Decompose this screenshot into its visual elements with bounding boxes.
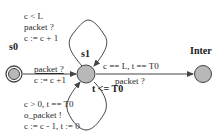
- state-inter-label: Inter: [190, 46, 212, 56]
- loop-bottom-update: c := c - 1, t := 0: [24, 121, 80, 131]
- state-s1-label: s1: [81, 49, 90, 59]
- s0-s1-update: c := c +1: [34, 75, 66, 85]
- state-s0-label: s0: [9, 42, 18, 52]
- loop-bottom-guard: c > 0, t == T0: [24, 99, 74, 109]
- s0-s1-sync: packet ?: [34, 64, 64, 74]
- s1-inter-sync: packet ?: [115, 76, 145, 86]
- loop-top-update: c := c + 1: [24, 33, 58, 43]
- edge-s1-loop-top[interactable]: [69, 20, 107, 66]
- loop-top-sync: packet ?: [24, 22, 54, 32]
- loop-top-guard: c < L: [24, 11, 43, 21]
- loop-bottom-sync: o_packet !: [24, 110, 62, 120]
- state-inter[interactable]: [195, 66, 212, 83]
- state-s1[interactable]: [77, 65, 95, 83]
- state-s0[interactable]: [6, 66, 22, 82]
- s1-inter-guard: c == L, t == T0: [103, 61, 159, 71]
